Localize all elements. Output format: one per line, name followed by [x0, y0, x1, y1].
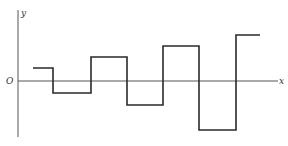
- step-waveform: [33, 35, 260, 130]
- x-axis-label: x: [279, 76, 284, 86]
- step-waveform-diagram: y O x: [0, 0, 288, 146]
- y-axis-label: y: [20, 8, 27, 18]
- origin-label: O: [6, 76, 14, 86]
